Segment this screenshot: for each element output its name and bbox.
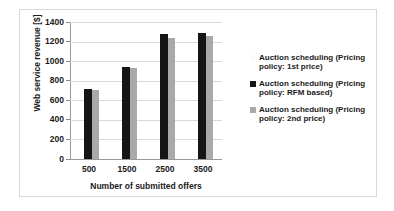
bar-rfm-based[interactable] [84,89,92,159]
bar-2nd-price[interactable] [168,38,175,159]
legend-swatch-2nd-price-icon [250,107,256,113]
chart-legend: Auction scheduling (Pricing policy: 1st … [250,53,374,131]
y-tick-label: 400 [24,115,64,124]
legend-label: Auction scheduling (Pricing policy: 2nd … [259,105,374,124]
y-tick-label: 1000 [24,57,64,66]
bar-rfm-based[interactable] [160,34,168,159]
bar-rfm-based[interactable] [122,67,130,159]
bar-2nd-price[interactable] [92,90,99,159]
y-tick-label: 200 [24,135,64,144]
bar-group [108,22,146,159]
y-tick-label: 1200 [24,37,64,46]
chart-figure: 1400 1200 1000 800 600 400 200 0 Web ser… [19,9,377,197]
x-axis-tick-labels: 500 1500 2500 3500 [70,165,222,177]
bar-2nd-price[interactable] [130,68,137,159]
x-tick-label: 500 [70,165,108,174]
legend-item[interactable]: Auction scheduling (Pricing policy: RFM … [250,79,374,98]
bar-group [146,22,184,159]
bar-2nd-price[interactable] [206,36,213,159]
plot-area [70,22,222,159]
y-axis-title: Web service revenue [$] [32,3,42,123]
axis-baseline [70,159,222,160]
x-tick-label: 3500 [184,165,222,174]
legend-swatch-rfm-based-icon [250,81,256,87]
legend-label: Auction scheduling (Pricing policy: 1st … [259,53,374,72]
y-tick-label: 1400 [24,18,64,27]
x-axis-title: Number of submitted offers [50,181,242,191]
legend-label: Auction scheduling (Pricing policy: RFM … [259,79,374,98]
x-tick-label: 2500 [146,165,184,174]
x-tick-label: 1500 [108,165,146,174]
y-tick-label: 0 [24,155,64,164]
legend-item[interactable]: Auction scheduling (Pricing policy: 2nd … [250,105,374,124]
legend-item[interactable]: Auction scheduling (Pricing policy: 1st … [250,53,374,72]
bar-rfm-based[interactable] [198,33,206,159]
legend-swatch-1st-price-icon [250,55,256,61]
y-axis-tick-labels: 1400 1200 1000 800 600 400 200 0 [20,10,64,198]
y-tick-label: 600 [24,96,64,105]
bar-group [70,22,108,159]
bar-group [184,22,222,159]
y-tick-label: 800 [24,76,64,85]
